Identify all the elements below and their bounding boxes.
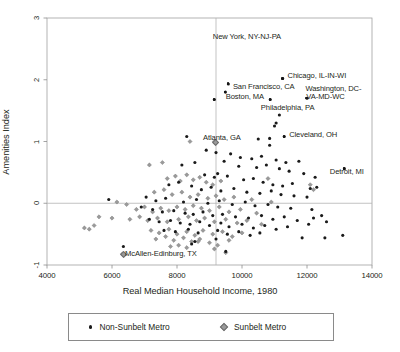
y-axis-label: Amenities Index xyxy=(1,109,11,174)
y-tick-label: 0 xyxy=(32,201,41,205)
point-annotation-label: Cleveland, OH xyxy=(289,131,337,140)
filled-circle-marker-icon xyxy=(281,77,284,80)
x-tick-label: 14000 xyxy=(361,271,382,280)
point-annotation-label: Detroit, MI xyxy=(330,168,364,177)
legend-label: Sunbelt Metro xyxy=(234,322,286,332)
y-tick-label: -1 xyxy=(32,262,41,269)
x-tick-label: 8000 xyxy=(169,271,186,280)
filled-circle-marker-icon xyxy=(213,98,216,101)
filled-circle-marker-icon xyxy=(89,325,92,328)
point-annotation-label: San Francisco, CA xyxy=(233,83,295,92)
x-tick-label: 4000 xyxy=(39,271,56,280)
filled-circle-marker-icon xyxy=(283,135,286,138)
point-annotation-label: Atlanta, GA xyxy=(203,134,241,143)
legend-entry-non-sunbelt-metro: Non-Sunbelt Metro xyxy=(89,322,170,332)
point-annotation-label: New York, NY-NJ-PA xyxy=(213,33,281,42)
y-tick-label: 2 xyxy=(32,78,41,82)
scatter-plot-figure: Amenities Index Real Median Household In… xyxy=(0,0,400,352)
point-annotation-label: VA-MD-WC xyxy=(306,93,344,102)
y-tick-label: 1 xyxy=(32,139,41,143)
point-annotation-label: Philadelphia, PA xyxy=(261,104,315,113)
x-tick-label: 6000 xyxy=(104,271,121,280)
y-tick-label: 3 xyxy=(32,16,41,20)
diamond-marker-icon xyxy=(220,323,228,331)
legend-entry-sunbelt-metro: Sunbelt Metro xyxy=(221,322,286,332)
axis-ticks xyxy=(44,18,373,269)
x-tick-label: 12000 xyxy=(296,271,317,280)
point-annotation-label: Boston, MA xyxy=(226,93,264,102)
legend-label: Non-Sunbelt Metro xyxy=(99,322,169,332)
point-annotation-label: McAllen-Edinburg, TX xyxy=(125,250,197,259)
x-axis-label: Real Median Household Income, 1980 xyxy=(0,286,400,296)
chart-legend: Non-Sunbelt Metro Sunbelt Metro xyxy=(68,313,334,341)
filled-circle-marker-icon xyxy=(269,98,272,101)
point-annotation-label: Chicago, IL-IN-WI xyxy=(288,72,347,81)
series-sunbelt-metro xyxy=(82,139,315,256)
x-tick-label: 10000 xyxy=(231,271,252,280)
